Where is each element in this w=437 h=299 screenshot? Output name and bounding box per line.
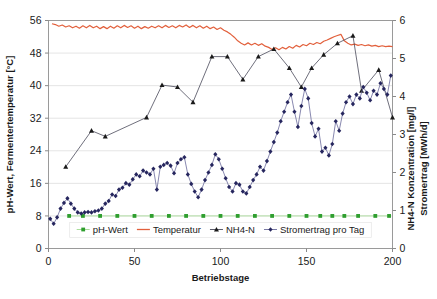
y-axis-right-tick-label: 5	[400, 52, 406, 64]
y-axis-left-tick-label: 40	[30, 79, 42, 91]
legend-item-label: NH4-N	[226, 224, 255, 235]
legend-item-label: pH-Wert	[93, 224, 129, 235]
x-axis-tick-label: 200	[384, 255, 402, 267]
y-axis-left-tick-label: 32	[30, 112, 42, 124]
series-line	[50, 76, 391, 224]
y-axis-right-title-line2: Stromertrag [MWh/d]	[418, 121, 429, 215]
x-axis-tick-label: 50	[129, 255, 141, 267]
series-3	[48, 73, 393, 226]
y-axis-right-tick-label: 6	[400, 14, 406, 26]
series-line	[66, 36, 393, 167]
x-axis: 050100150200Betriebstage	[46, 249, 402, 283]
y-axis-left-title: pH-Wert, Fermentertemperatur [°C]	[4, 56, 15, 214]
y-axis-left-tick-label: 8	[36, 210, 42, 222]
x-axis-tick-label: 150	[298, 255, 316, 267]
x-axis-tick-label: 100	[212, 255, 230, 267]
series-line	[52, 24, 393, 50]
x-axis-title: Betriebstage	[192, 272, 250, 283]
chart-container: 08162432404856pH-Wert, Fermentertemperat…	[0, 0, 437, 299]
legend-item-label: Temperatur	[153, 224, 201, 235]
y-axis-left: 08162432404856pH-Wert, Fermentertemperat…	[4, 14, 49, 254]
x-axis-tick-label: 0	[46, 255, 52, 267]
y-axis-left-tick-label: 16	[30, 177, 42, 189]
y-axis-right-title-line1: NH4-N Konzentration [mg/l]	[405, 106, 416, 230]
series-0	[67, 214, 391, 218]
y-axis-left-tick-label: 24	[30, 144, 42, 156]
y-axis-right-tick-label: 0	[400, 242, 406, 254]
legend: pH-WertTemperaturNH4-NStromertrag pro Ta…	[70, 223, 372, 238]
y-axis-right-tick-label: 4	[400, 90, 406, 102]
series-1	[52, 24, 393, 50]
y-axis-right: 0123456NH4-N Konzentration [mg/l]Stromer…	[393, 14, 430, 254]
legend-item-label: Stromertrag pro Tag	[280, 224, 364, 235]
y-axis-left-tick-label: 56	[30, 14, 42, 26]
gridlines	[49, 21, 393, 216]
legend-item-3[interactable]: Stromertrag pro Tag	[264, 224, 364, 235]
chart-plot: 08162432404856pH-Wert, Fermentertemperat…	[0, 0, 437, 299]
y-axis-left-tick-label: 48	[30, 47, 42, 59]
y-axis-left-tick-label: 0	[36, 242, 42, 254]
